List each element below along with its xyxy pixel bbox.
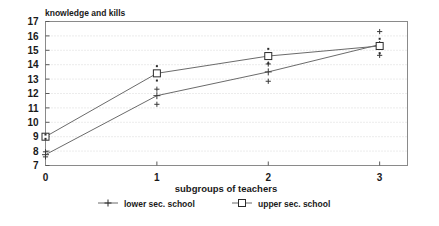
error-bar-marker	[267, 62, 269, 64]
legend-item-upper-sec-school[interactable]: upper sec. school	[232, 199, 330, 209]
open-square-marker-icon	[239, 200, 246, 207]
y-axis-tick-label: 15	[27, 45, 39, 56]
chart-svg: 7891011121314151617 0123 knowledge and k…	[0, 0, 439, 226]
y-axis-tick-label: 12	[27, 88, 39, 99]
series-lines	[46, 45, 380, 155]
chart-title: knowledge and kills	[45, 8, 126, 18]
y-axis-ticks	[46, 22, 50, 166]
y-axis-tick-label: 9	[33, 131, 39, 142]
x-axis-ticks	[157, 162, 380, 166]
error-bar-marker	[45, 138, 47, 140]
x-axis-tick-label: 1	[154, 172, 160, 183]
error-bar-marker	[377, 29, 382, 34]
gridlines	[46, 36, 408, 151]
series-markers	[42, 29, 383, 159]
y-axis-tick-label: 8	[33, 146, 39, 157]
error-bar-marker	[379, 38, 381, 40]
y-axis-tick-label: 14	[27, 59, 39, 70]
y-axis-tick-label: 7	[33, 160, 39, 171]
data-point-marker	[376, 42, 383, 49]
legend-item-lower-sec-school[interactable]: lower sec. school	[98, 199, 195, 209]
legend-label-1: upper sec. school	[258, 199, 330, 209]
plus-marker-icon	[105, 200, 112, 207]
data-point-marker	[153, 70, 160, 77]
error-bar-marker	[156, 80, 158, 82]
series-line-0	[46, 45, 380, 155]
chart-container: 7891011121314151617 0123 knowledge and k…	[0, 0, 439, 226]
error-bar-marker	[379, 52, 381, 54]
legend: lower sec. school upper sec. school	[98, 199, 330, 209]
x-axis-title: subgroups of teachers	[175, 183, 277, 194]
x-axis-tick-label: 2	[265, 172, 271, 183]
error-bar-marker	[267, 48, 269, 50]
y-axis-tick-labels: 7891011121314151617	[27, 16, 39, 171]
data-point-marker	[265, 68, 272, 75]
data-point-marker	[265, 53, 272, 60]
series-line-1	[46, 46, 380, 137]
y-axis-tick-label: 11	[28, 103, 39, 114]
error-bar-marker	[156, 65, 158, 67]
y-axis-tick-label: 10	[27, 117, 39, 128]
error-bar-marker	[154, 102, 159, 107]
y-axis-tick-label: 17	[27, 16, 39, 27]
x-axis-tick-label: 0	[43, 172, 49, 183]
x-axis-tick-labels: 0123	[43, 172, 383, 183]
y-axis-tick-label: 13	[27, 74, 39, 85]
x-axis-tick-label: 3	[377, 172, 383, 183]
error-bar-marker	[266, 79, 271, 84]
error-bar-marker	[154, 87, 159, 92]
error-bar-marker	[45, 134, 47, 136]
legend-label-0: lower sec. school	[124, 199, 195, 209]
y-axis-tick-label: 16	[27, 31, 39, 42]
